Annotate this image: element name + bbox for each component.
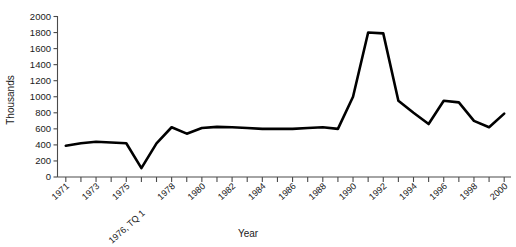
y-axis-tick-label: 1400: [30, 59, 51, 70]
x-axis-tick-label: 1998: [458, 181, 480, 202]
x-axis-tick-label: 1971: [50, 181, 72, 202]
data-series-line: [66, 33, 504, 169]
y-axis-tick-label: 1800: [30, 27, 51, 38]
x-axis-tick-label: 1980: [186, 181, 208, 202]
x-axis-tick-label: 1973: [80, 181, 102, 202]
line-chart: 0200400600800100012001400160018002000 19…: [0, 0, 516, 247]
x-axis-tick-label: 1975: [110, 181, 132, 202]
x-axis-tick-labels: 1971197319751976, TQ 1197819801982198419…: [50, 181, 510, 245]
x-axis-title: Year: [238, 228, 259, 239]
y-axis-tick-label: 1600: [30, 43, 51, 54]
y-axis-tick-label: 400: [35, 139, 51, 150]
y-axis-title: Thousands: [5, 75, 16, 124]
x-axis-tick-label: 1994: [397, 181, 419, 202]
y-axis-tick-label: 1000: [30, 91, 51, 102]
x-axis-tick-label: 1988: [307, 181, 329, 202]
y-axis-tick-label: 800: [35, 107, 51, 118]
x-axis-tick-label: 1978: [155, 181, 177, 202]
x-axis-tick-label: 2000: [488, 181, 510, 202]
x-axis-tick-label: 1986: [276, 181, 298, 202]
x-axis-tick-label: 1992: [367, 181, 389, 202]
x-axis-tick-label: 1996: [427, 181, 449, 202]
chart-canvas: 0200400600800100012001400160018002000 19…: [0, 0, 516, 247]
y-axis-tick-label: 0: [46, 171, 51, 182]
x-axis-tick-label: 1984: [246, 181, 268, 202]
y-axis-tick-label: 2000: [30, 11, 51, 22]
x-axis-tick-label: 1990: [337, 181, 359, 202]
y-axis-tick-label: 600: [35, 123, 51, 134]
y-axis-tick-label: 200: [35, 155, 51, 166]
x-axis-tick-label: 1982: [216, 181, 238, 202]
x-axis-tick-marks: [66, 177, 504, 182]
y-axis-tick-marks: [54, 17, 58, 178]
y-axis-tick-labels: 0200400600800100012001400160018002000: [30, 11, 51, 183]
x-axis-tick-label: 1976, TQ 1: [107, 208, 147, 245]
y-axis-tick-label: 1200: [30, 75, 51, 86]
